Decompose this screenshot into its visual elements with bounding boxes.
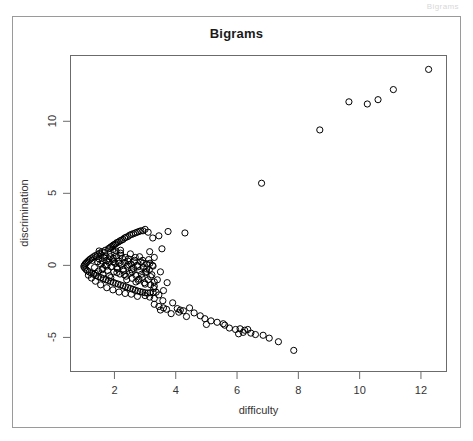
y-tick-label: -5 [46,333,58,343]
x-axis-label: difficulty [70,404,447,416]
y-tick-label: 0 [46,262,58,268]
x-tick-label: 8 [295,384,301,396]
y-axis-label: discrimination [18,179,30,246]
x-tick-label: 10 [354,384,366,396]
y-tick-label: 10 [46,115,58,127]
axes-ticks [0,0,473,441]
figure-page: Bigrams Bigrams 24681012-50510 difficult… [0,0,473,441]
x-tick-label: 4 [173,384,179,396]
x-tick-label: 6 [234,384,240,396]
y-tick-label: 5 [46,190,58,196]
x-tick-label: 12 [415,384,427,396]
x-tick-label: 2 [111,384,117,396]
